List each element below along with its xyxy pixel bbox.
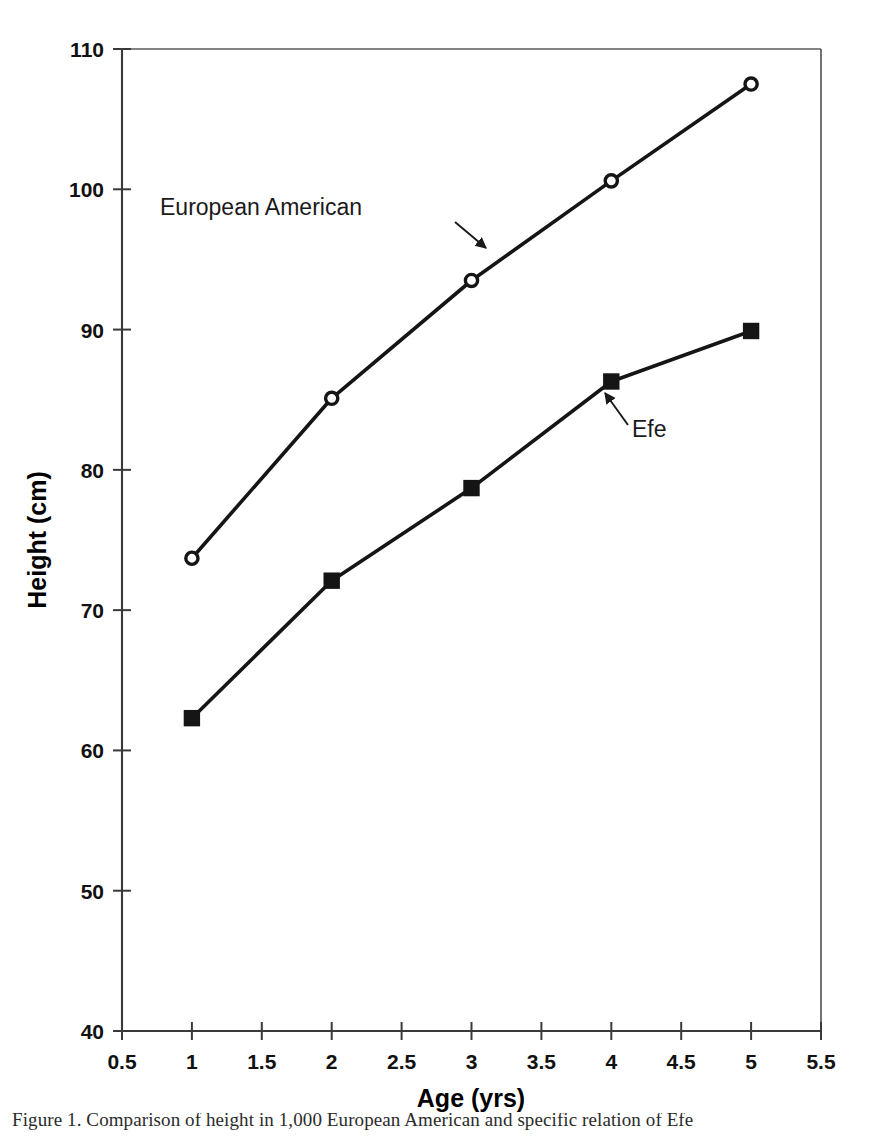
x-axis-title: Age (yrs): [417, 1084, 525, 1112]
x-tick-label: 3: [466, 1050, 478, 1073]
data-point-marker: [185, 711, 199, 725]
x-tick-label: 3.5: [527, 1050, 557, 1073]
y-tick-label: 70: [81, 599, 104, 622]
data-point-marker: [186, 552, 198, 564]
data-point-marker: [326, 392, 338, 404]
series-layer: [185, 78, 759, 725]
y-axis-title: Height (cm): [23, 471, 51, 609]
x-tick-label: 4.5: [667, 1050, 697, 1073]
x-tick-label: 4: [605, 1050, 617, 1073]
y-tick-label: 110: [70, 38, 104, 61]
y-tick-label: 50: [81, 880, 104, 903]
y-tick-label: 90: [81, 319, 104, 342]
x-axis-ticks: 0.511.522.533.544.555.5: [107, 1022, 836, 1073]
data-point-marker: [745, 78, 757, 90]
figure-root: 110100908070605040 0.511.522.533.544.555…: [0, 0, 869, 1139]
data-point-marker: [744, 324, 758, 338]
series-line: [192, 331, 751, 718]
figure-caption: Figure 1. Comparison of height in 1,000 …: [12, 1113, 693, 1131]
series-annotation-arrow-icon: [455, 222, 486, 248]
x-tick-label: 5: [745, 1050, 757, 1073]
y-tick-label: 60: [81, 739, 104, 762]
y-tick-label: 80: [81, 459, 104, 482]
x-tick-label: 1: [186, 1050, 198, 1073]
series-annotation-label: European American: [160, 194, 362, 220]
x-tick-label: 5.5: [806, 1050, 836, 1073]
height-by-age-line-chart: 110100908070605040 0.511.522.533.544.555…: [0, 0, 869, 1139]
data-point-marker: [464, 481, 478, 495]
x-tick-label: 0.5: [107, 1050, 137, 1073]
data-point-marker: [465, 274, 477, 286]
x-tick-label: 2: [326, 1050, 338, 1073]
series-annotation-label: Efe: [632, 416, 667, 442]
annotation-layer: European AmericanEfe: [160, 194, 667, 442]
x-tick-label: 2.5: [387, 1050, 417, 1073]
data-point-marker: [604, 374, 618, 388]
data-point-marker: [325, 573, 339, 587]
x-tick-label: 1.5: [247, 1050, 277, 1073]
figure-caption-strip: Figure 1. Comparison of height in 1,000 …: [0, 1113, 869, 1139]
y-tick-label: 40: [81, 1020, 104, 1043]
series-annotation-arrow-icon: [605, 393, 628, 425]
y-tick-label: 100: [69, 178, 104, 201]
data-point-marker: [605, 175, 617, 187]
data-series: [185, 324, 759, 726]
